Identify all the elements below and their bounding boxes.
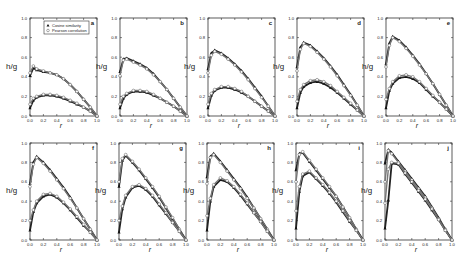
data-point-circle [151,194,154,197]
data-point-circle [240,90,243,93]
data-point-circle [55,178,58,181]
data-point-circle [315,177,318,180]
data-point-circle [179,110,182,113]
data-point-circle [132,61,135,64]
data-point-circle [301,173,304,176]
data-point-circle [210,92,213,95]
data-point-circle [29,103,32,106]
x-tick-label: 0.8 [436,242,442,247]
data-point-circle [398,40,401,43]
panel-g: 0.00.20.40.60.81.00.00.20.40.60.81.0rh/g… [95,141,190,254]
y-axis-label: h/g [273,62,284,71]
data-point-circle [151,185,154,188]
figure: 0.00.20.40.60.81.00.00.20.40.60.81.0rh/g… [0,0,475,261]
data-point-circle [390,161,393,164]
data-point-circle [322,58,325,61]
data-point-circle [171,216,174,219]
data-point-circle [295,210,298,213]
data-point-circle [384,202,387,205]
x-tick-label: 1.0 [449,242,455,247]
data-point-circle [226,170,229,173]
data-point-circle [356,104,359,107]
data-point-circle [232,178,235,181]
data-point-circle [336,90,339,93]
y-tick-label: 0.8 [287,160,293,165]
x-tick-label: 1.0 [184,118,190,123]
data-point-circle [206,182,209,185]
data-point-circle [451,239,454,242]
x-tick-label: 0.2 [40,242,46,247]
data-point-circle [254,87,257,90]
data-point-circle [159,97,162,100]
x-tick-label: 1.0 [271,242,277,247]
data-point-circle [405,47,408,50]
data-point-circle [69,208,72,211]
y-tick-label: 0.2 [377,94,383,99]
data-point-circle [260,96,263,99]
x-axis-label: r [150,122,153,129]
x-tick-label: 0.6 [157,118,163,123]
x-tick-label: 0.6 [333,242,339,247]
data-point-circle [417,189,420,192]
x-tick-label: 1.0 [450,118,456,123]
data-point-circle [206,214,209,217]
y-tick-label: 0.4 [199,74,205,79]
x-axis-label: r [60,122,63,129]
data-point-circle [299,88,302,91]
data-point-circle [178,230,181,233]
y-tick-label: 0.6 [110,179,116,184]
data-point-circle [363,115,366,118]
x-tick-label: 0.8 [81,118,87,123]
y-tick-label: 1.0 [21,141,27,146]
x-tick-label: 0.0 [382,242,388,247]
data-point-circle [35,95,38,98]
data-point-circle [166,88,169,91]
data-point-circle [445,104,448,107]
data-point-circle [425,87,428,90]
y-tick-label: 1.0 [21,16,27,21]
data-point-circle [253,207,256,210]
y-tick-label: 0.0 [198,238,204,243]
data-point-circle [62,96,65,99]
data-point-circle [388,87,391,90]
y-tick-label: 0.8 [377,35,383,40]
data-point-circle [411,75,414,78]
y-tick-label: 0.2 [198,218,204,223]
data-point-circle [296,70,299,73]
y-tick-label: 0.2 [288,94,294,99]
data-point-circle [82,223,85,226]
data-point-circle [452,115,455,118]
data-point-circle [159,80,162,83]
data-point-circle [49,93,52,96]
y-tick-label: 1.0 [377,16,383,21]
y-tick-label: 0.2 [376,218,382,223]
data-point-circle [212,183,215,186]
data-point-circle [405,73,408,76]
data-point-circle [308,159,311,162]
data-point-circle [335,195,338,198]
x-tick-label: 0.0 [293,242,299,247]
data-point-circle [165,206,168,209]
data-point-circle [328,185,331,188]
data-point-circle [247,78,250,81]
data-point-circle [302,42,305,45]
data-point-circle [309,45,312,48]
x-tick-label: 1.0 [183,242,189,247]
data-point-circle [316,78,319,81]
y-tick-label: 0.2 [110,218,116,223]
data-point-circle [158,203,161,206]
y-tick-label: 0.6 [287,179,293,184]
y-tick-label: 0.4 [198,199,204,204]
x-tick-label: 1.0 [94,118,100,123]
data-point-circle [124,194,127,197]
data-point-circle [62,77,65,80]
data-point-circle [266,230,269,233]
panel-j: 0.00.20.40.60.81.00.00.20.40.60.81.0rh/g… [361,141,456,254]
y-tick-label: 0.4 [21,199,27,204]
x-axis-label: r [327,122,330,129]
data-point-circle [62,201,65,204]
data-point-circle [432,82,435,85]
y-tick-label: 0.6 [199,55,205,60]
data-point-circle [42,93,45,96]
data-point-circle [418,64,421,67]
